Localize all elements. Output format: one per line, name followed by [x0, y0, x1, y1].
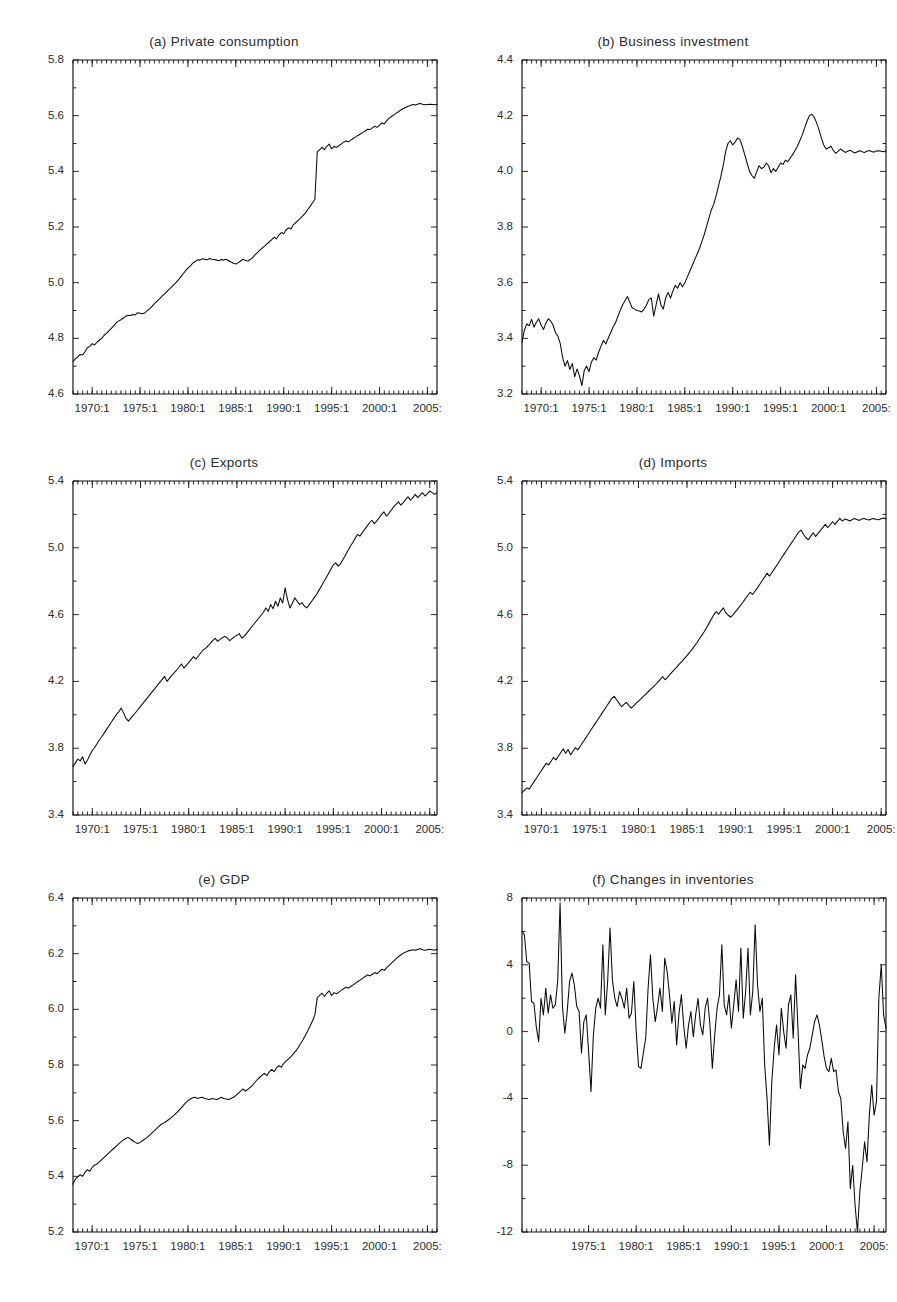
panel-a-plot: 4.64.85.05.25.45.65.81970:11975:11980:11… — [0, 54, 448, 444]
panel-d-xtick-label: 1985:1 — [669, 823, 704, 835]
panel-c-plot: 3.43.84.24.65.05.41970:11975:11980:11985… — [0, 475, 448, 865]
panel-d-ytick-label: 4.2 — [497, 674, 513, 686]
panel-d-xtick-label: 1990:1 — [718, 823, 753, 835]
panel-d-axes: 3.43.84.24.65.05.41970:11975:11980:11985… — [497, 474, 896, 835]
panel-b-ytick-label: 4.4 — [497, 53, 514, 65]
panel-d-ytick-label: 4.6 — [497, 608, 513, 620]
panel-d-ytick-label: 3.8 — [497, 741, 513, 753]
panel-a-series-line — [73, 103, 437, 361]
panel-b-series-line — [522, 114, 886, 385]
panel-b-ytick-label: 3.2 — [497, 387, 513, 399]
panel-e-ytick-label: 5.6 — [48, 1114, 64, 1126]
panel-f-ytick-label: 4 — [507, 958, 514, 970]
panel-a-ytick-label: 5.0 — [48, 276, 64, 288]
panel-d-xtick-label: 1995:1 — [766, 823, 801, 835]
panel-e-ytick-label: 6.4 — [48, 891, 65, 903]
panel-f-xtick-label: 1985:1 — [666, 1240, 701, 1252]
panel-a-ytick-label: 5.8 — [48, 53, 64, 65]
panel-d-xtick-label: 1980:1 — [621, 823, 656, 835]
panel-a-xtick-label: 1980:1 — [170, 402, 205, 414]
panel-c-series-line — [73, 491, 437, 767]
panel-a-xtick-label: 1995:1 — [314, 402, 349, 414]
panel-e-xtick-label: 1975:1 — [122, 1240, 157, 1252]
panel-f-ytick-label: 8 — [507, 891, 513, 903]
panel-e-title: (e) GDP — [0, 872, 448, 887]
panel-d-series-line — [522, 518, 886, 793]
panel-b-ytick-label: 4.0 — [497, 164, 513, 176]
panel-c-ytick-label: 5.4 — [48, 474, 65, 486]
panel-d-svg: 3.43.84.24.65.05.41970:11975:11980:11985… — [449, 475, 897, 865]
panel-f-svg: -12-8-40481975:11980:11985:11990:11995:1… — [449, 892, 897, 1282]
panel-a-ytick-label: 5.4 — [48, 164, 65, 176]
panel-d-xtick-label: 2000:1 — [815, 823, 850, 835]
panel-e-xtick-label: 2005: — [413, 1240, 442, 1252]
panel-c-xtick-label: 1970:1 — [75, 823, 110, 835]
panel-f-ytick-label: -8 — [503, 1158, 513, 1170]
panel-a-xtick-label: 2005: — [413, 402, 442, 414]
panel-d-xtick-label: 2005: — [867, 823, 896, 835]
panel-e-plot: 5.25.45.65.86.06.26.41970:11975:11980:11… — [0, 892, 448, 1282]
panel-a-xtick-label: 1970:1 — [75, 402, 110, 414]
panel-e-xtick-label: 1990:1 — [266, 1240, 301, 1252]
panel-b-title: (b) Business investment — [449, 34, 897, 49]
panel-f-xtick-label: 1995:1 — [761, 1240, 796, 1252]
panel-e-series-line — [73, 949, 437, 1184]
panel-d-plot: 3.43.84.24.65.05.41970:11975:11980:11985… — [449, 475, 897, 865]
panel-a-title: (a) Private consumption — [0, 34, 448, 49]
panel-a-xtick-label: 2000:1 — [362, 402, 397, 414]
panel-b-svg: 3.23.43.63.84.04.24.41970:11975:11980:11… — [449, 54, 897, 444]
figure-six-panel-macro-series: (a) Private consumption 4.64.85.05.25.45… — [0, 0, 897, 1302]
panel-b-ytick-label: 3.8 — [497, 220, 513, 232]
panel-f-xtick-label: 1975:1 — [571, 1240, 606, 1252]
panel-c-xtick-label: 1980:1 — [171, 823, 206, 835]
panel-a-svg: 4.64.85.05.25.45.65.81970:11975:11980:11… — [0, 54, 448, 444]
panel-c-xtick-label: 1975:1 — [123, 823, 158, 835]
panel-e-svg: 5.25.45.65.86.06.26.41970:11975:11980:11… — [0, 892, 448, 1282]
panel-e-ytick-label: 5.4 — [48, 1169, 65, 1181]
panel-f-changes-in-inventories: (f) Changes in inventories -12-8-4048197… — [449, 872, 897, 1282]
panel-c-exports: (c) Exports 3.43.84.24.65.05.41970:11975… — [0, 455, 448, 865]
panel-e-xtick-label: 1985:1 — [218, 1240, 253, 1252]
panel-a-ytick-label: 4.6 — [48, 387, 64, 399]
panel-a-private-consumption: (a) Private consumption 4.64.85.05.25.45… — [0, 34, 448, 444]
panel-f-series-line — [522, 903, 886, 1232]
panel-f-axes: -12-8-40481975:11980:11985:11990:11995:1… — [496, 891, 888, 1252]
panel-f-ytick-label: -4 — [503, 1091, 514, 1103]
panel-c-ytick-label: 5.0 — [48, 541, 64, 553]
panel-e-ytick-label: 6.2 — [48, 947, 64, 959]
panel-e-xtick-label: 1980:1 — [170, 1240, 205, 1252]
panel-c-title: (c) Exports — [0, 455, 448, 470]
panel-e-xtick-label: 1970:1 — [75, 1240, 110, 1252]
panel-b-business-investment: (b) Business investment 3.23.43.63.84.04… — [449, 34, 897, 444]
panel-e-gdp: (e) GDP 5.25.45.65.86.06.26.41970:11975:… — [0, 872, 448, 1282]
panel-b-ytick-label: 4.2 — [497, 109, 513, 121]
panel-a-xtick-label: 1975:1 — [122, 402, 157, 414]
panel-c-xtick-label: 2000:1 — [364, 823, 399, 835]
panel-a-ytick-label: 5.2 — [48, 220, 64, 232]
panel-c-xtick-label: 1985:1 — [219, 823, 254, 835]
panel-c-ytick-label: 3.4 — [48, 808, 65, 820]
panel-b-axes: 3.23.43.63.84.04.24.41970:11975:11980:11… — [497, 53, 891, 414]
panel-b-xtick-label: 1985:1 — [667, 402, 702, 414]
panel-a-ytick-label: 4.8 — [48, 331, 64, 343]
panel-b-xtick-label: 1995:1 — [763, 402, 798, 414]
panel-e-ytick-label: 5.2 — [48, 1225, 64, 1237]
panel-f-xtick-label: 1980:1 — [619, 1240, 654, 1252]
panel-d-title: (d) Imports — [449, 455, 897, 470]
panel-b-xtick-label: 1970:1 — [524, 402, 559, 414]
panel-f-ytick-label: 0 — [507, 1025, 513, 1037]
panel-b-xtick-label: 2000:1 — [811, 402, 846, 414]
panel-c-axes: 3.43.84.24.65.05.41970:11975:11980:11985… — [48, 474, 444, 835]
panel-f-xtick-label: 1990:1 — [714, 1240, 749, 1252]
panel-e-ytick-label: 6.0 — [48, 1002, 64, 1014]
panel-a-axes: 4.64.85.05.25.45.65.81970:11975:11980:11… — [48, 53, 442, 414]
panel-d-xtick-label: 1970:1 — [524, 823, 559, 835]
panel-d-ytick-label: 3.4 — [497, 808, 514, 820]
panel-c-ytick-label: 3.8 — [48, 741, 64, 753]
panel-e-xtick-label: 2000:1 — [362, 1240, 397, 1252]
panel-e-xtick-label: 1995:1 — [314, 1240, 349, 1252]
panel-f-title: (f) Changes in inventories — [449, 872, 897, 887]
panel-c-ytick-label: 4.6 — [48, 608, 64, 620]
panel-d-ytick-label: 5.4 — [497, 474, 514, 486]
panel-f-xtick-label: 2000:1 — [809, 1240, 844, 1252]
